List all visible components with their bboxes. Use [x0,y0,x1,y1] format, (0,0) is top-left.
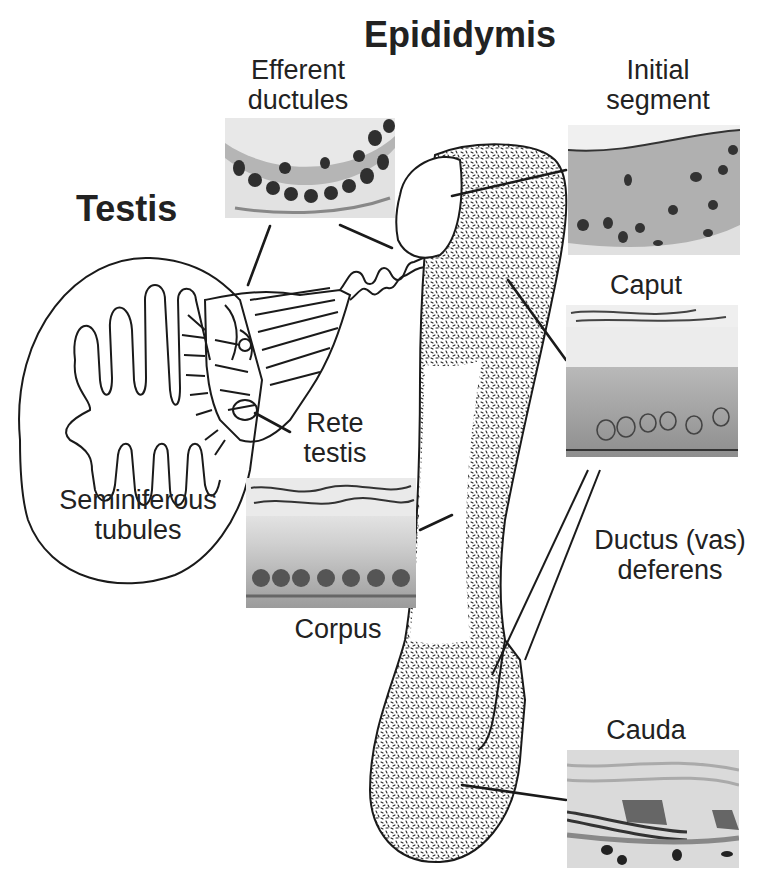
ductus-deferens-label: Ductus (vas) deferens [580,525,760,585]
seminiferous-tubules-label: Seminiferous tubules [48,485,228,545]
micrograph-corpus [246,478,416,608]
efferent-ductules-drawing [340,255,430,300]
rete-testis-label-line1: Rete [290,408,380,438]
initial-segment-label: Initial segment [578,55,738,115]
micrograph-caput [566,305,738,457]
seminiferous-tubules-label-line1: Seminiferous [48,485,228,515]
efferent-ductules-label-line2: ductules [228,85,368,115]
efferent-ductules-label-line1: Efferent [228,55,368,85]
efferent-ductules-label: Efferent ductules [228,55,368,115]
initial-segment-label-line2: segment [578,85,738,115]
initial-segment-label-line1: Initial [578,55,738,85]
rete-testis-label: Rete testis [290,408,380,468]
ductus-deferens-label-line2: deferens [580,555,760,585]
epididymis-title: Epididymis [364,16,556,54]
micrograph-efferent-ductules [225,118,395,218]
cauda-label: Cauda [596,715,696,745]
testis-title: Testis [76,190,177,228]
caput-label: Caput [596,270,696,300]
corpus-label: Corpus [278,614,398,644]
micrograph-cauda [567,750,739,868]
ductus-deferens-label-line1: Ductus (vas) [580,525,760,555]
seminiferous-tubules-label-line2: tubules [48,515,228,545]
micrograph-initial-segment [568,125,740,255]
rete-testis-label-line2: testis [290,438,380,468]
